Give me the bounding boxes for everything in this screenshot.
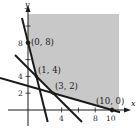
y-tick-2: 2 bbox=[18, 89, 23, 98]
label-point-0-8: (0, 8) bbox=[31, 37, 54, 47]
y-tick-8: 8 bbox=[18, 39, 23, 48]
point-3-2 bbox=[52, 92, 55, 95]
x-tick-8: 8 bbox=[93, 114, 98, 123]
label-point-1-4: (1, 4) bbox=[38, 65, 61, 75]
x-tick-10: 10 bbox=[106, 114, 116, 123]
x-tick-4: 4 bbox=[59, 114, 64, 123]
x-axis-label: x bbox=[131, 99, 136, 108]
y-axis-label: y bbox=[24, 0, 30, 9]
point-1-4 bbox=[35, 75, 38, 78]
label-point-10-0: (10, 0) bbox=[96, 96, 124, 106]
y-tick-4: 4 bbox=[18, 72, 23, 81]
point-10-0 bbox=[110, 108, 114, 112]
label-point-3-2: (3, 2) bbox=[55, 81, 78, 91]
point-0-8 bbox=[26, 41, 30, 45]
feasible-region-chart: y x 4 8 10 2 4 8 (0, 8) (1, 4) (3, 2) (1… bbox=[0, 0, 137, 134]
